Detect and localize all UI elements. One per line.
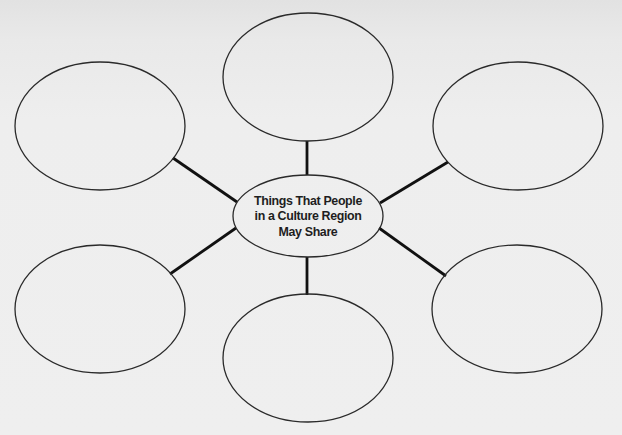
connector-line-bottom-left xyxy=(170,228,236,274)
web-organizer-diagram: Things That People in a Culture Region M… xyxy=(0,0,622,435)
center-label-line-2: in a Culture Region xyxy=(255,208,362,224)
connector-line-top-right xyxy=(380,162,448,203)
answer-oval-top-left[interactable] xyxy=(15,62,185,190)
center-label-line-1: Things That People xyxy=(254,193,362,209)
connector-line-top-left xyxy=(173,158,237,202)
connector-line-bottom-right xyxy=(379,228,446,276)
answer-oval-bottom-left[interactable] xyxy=(15,245,185,373)
answer-oval-bottom-center[interactable] xyxy=(223,294,393,422)
answer-oval-top-right[interactable] xyxy=(433,62,603,190)
answer-oval-top-center[interactable] xyxy=(223,13,393,141)
center-topic-label: Things That People in a Culture Region M… xyxy=(239,175,377,257)
answer-oval-bottom-right[interactable] xyxy=(432,245,602,373)
center-label-line-3: May Share xyxy=(279,224,338,240)
